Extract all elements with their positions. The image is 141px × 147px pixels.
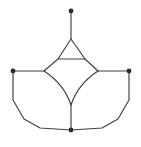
diagram-canvas [0, 0, 141, 147]
edge-outer-left [13, 71, 71, 130]
vertex-left [11, 69, 16, 74]
vertex-right [127, 69, 132, 74]
edge-star-lower-right [71, 71, 98, 105]
edge-star-lower-left [44, 71, 71, 105]
edge-triangle [58, 39, 85, 59]
vertex-top [69, 9, 74, 14]
edge-outer-right [71, 71, 129, 130]
graph-figure [0, 0, 141, 147]
vertex-bottom [69, 128, 74, 133]
edge-right-junction-to-triangle [85, 59, 98, 71]
edge-left-junction-to-triangle [44, 59, 58, 71]
